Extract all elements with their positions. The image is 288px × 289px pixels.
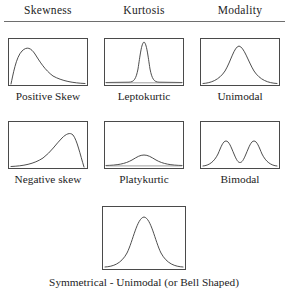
- header-divider-rule: [4, 21, 285, 22]
- panel-bimodal: Bimodal: [192, 121, 288, 186]
- distribution-shapes-figure: Skewness Kurtosis Modality Positive Skew…: [0, 0, 288, 289]
- curve-unimodal: [201, 39, 279, 85]
- curve-leptokurtic: [105, 39, 183, 85]
- caption-platykurtic: Platykurtic: [96, 172, 192, 186]
- curve-bimodal: [201, 122, 279, 168]
- plot-frame-positive-skew: [8, 38, 88, 86]
- column-header-row: Skewness Kurtosis Modality: [0, 2, 288, 20]
- panel-platykurtic: Platykurtic: [96, 121, 192, 186]
- panel-unimodal: Unimodal: [192, 38, 288, 103]
- plot-frame-unimodal: [200, 38, 280, 86]
- curve-negative-skew: [9, 122, 87, 168]
- panel-symmetrical: [96, 206, 192, 270]
- plot-frame-platykurtic: [104, 121, 184, 169]
- caption-bimodal: Bimodal: [192, 172, 288, 186]
- column-header-skewness: Skewness: [0, 2, 96, 18]
- curve-positive-skew: [9, 39, 87, 85]
- caption-symmetrical: Symmetrical - Unimodal (or Bell Shaped): [0, 275, 288, 289]
- column-header-modality: Modality: [192, 2, 288, 18]
- caption-unimodal: Unimodal: [192, 89, 288, 103]
- plot-frame-symmetrical: [102, 206, 186, 270]
- plot-frame-leptokurtic: [104, 38, 184, 86]
- panel-leptokurtic: Leptokurtic: [96, 38, 192, 103]
- caption-negative-skew: Negative skew: [0, 172, 96, 186]
- curve-symmetrical: [103, 207, 185, 269]
- curve-platykurtic: [105, 122, 183, 168]
- panel-positive-skew: Positive Skew: [0, 38, 96, 103]
- caption-positive-skew: Positive Skew: [0, 89, 96, 103]
- column-header-kurtosis: Kurtosis: [96, 2, 192, 18]
- caption-leptokurtic: Leptokurtic: [96, 89, 192, 103]
- plot-frame-bimodal: [200, 121, 280, 169]
- plot-frame-negative-skew: [8, 121, 88, 169]
- panel-negative-skew: Negative skew: [0, 121, 96, 186]
